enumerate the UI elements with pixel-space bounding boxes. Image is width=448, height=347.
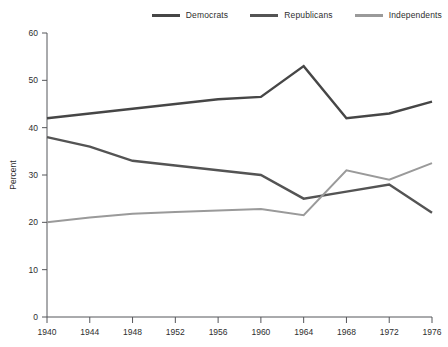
x-tick-label: 1948: [123, 327, 142, 337]
chart-svg: 0102030405060 Percent 194019441948195219…: [0, 0, 448, 347]
y-tick-label: 30: [29, 170, 39, 180]
series-group: [47, 66, 432, 222]
x-tick-label: 1964: [294, 327, 313, 337]
y-tick-label: 60: [29, 28, 39, 38]
y-tick-group: 0102030405060: [29, 28, 47, 322]
series-line-democrats: [47, 66, 432, 118]
series-line-republicans: [47, 137, 432, 213]
y-tick-label: 0: [33, 312, 38, 322]
x-tick-group: 1940194419481952195619601964196819721976: [38, 317, 442, 337]
x-tick-label: 1940: [38, 327, 57, 337]
plot-area: 0102030405060 Percent 194019441948195219…: [0, 0, 448, 347]
x-axis: 1940194419481952195619601964196819721976: [38, 317, 442, 337]
y-tick-label: 40: [29, 123, 39, 133]
x-tick-label: 1960: [251, 327, 270, 337]
y-axis-title: Percent: [8, 160, 18, 190]
x-tick-label: 1944: [80, 327, 99, 337]
x-tick-label: 1976: [423, 327, 442, 337]
x-tick-label: 1972: [380, 327, 399, 337]
percent-by-party-line-chart: Democrats Republicans Independents 01020…: [0, 0, 448, 347]
x-tick-label: 1956: [209, 327, 228, 337]
y-tick-label: 50: [29, 75, 39, 85]
y-axis: 0102030405060 Percent: [8, 28, 47, 322]
y-tick-label: 10: [29, 265, 39, 275]
y-tick-label: 20: [29, 217, 39, 227]
x-tick-label: 1968: [337, 327, 356, 337]
x-tick-label: 1952: [166, 327, 185, 337]
